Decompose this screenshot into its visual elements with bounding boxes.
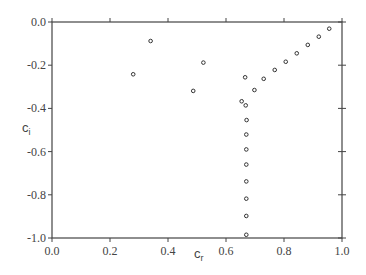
y-tick-label: -0.4 xyxy=(27,101,46,115)
data-point xyxy=(245,214,249,218)
data-point xyxy=(273,68,277,72)
data-point xyxy=(202,61,206,65)
x-tick-label: 0.4 xyxy=(161,244,176,258)
data-point xyxy=(240,99,244,103)
data-points xyxy=(131,27,331,237)
data-point xyxy=(262,77,266,81)
data-point xyxy=(245,118,249,122)
data-point xyxy=(244,104,248,108)
data-point xyxy=(245,180,249,184)
data-point xyxy=(245,133,249,137)
x-tick-label: 0.2 xyxy=(103,244,118,258)
y-axis-label: ci xyxy=(22,120,31,137)
data-point xyxy=(306,43,310,47)
data-point xyxy=(284,60,288,64)
data-point xyxy=(317,35,321,39)
y-tick-label: -0.2 xyxy=(27,58,46,72)
data-point xyxy=(295,52,299,56)
data-point xyxy=(245,148,249,152)
y-tick-label: -1.0 xyxy=(27,231,46,245)
x-tick-label: 0.0 xyxy=(45,244,60,258)
data-point xyxy=(253,88,257,92)
x-tick-label: 0.8 xyxy=(277,244,292,258)
data-point xyxy=(327,27,331,31)
x-axis-label: cr xyxy=(194,246,204,263)
x-tick-label: 0.6 xyxy=(219,244,234,258)
y-tick-label: -0.6 xyxy=(27,145,46,159)
data-point xyxy=(245,197,249,201)
data-point xyxy=(243,75,247,79)
data-point xyxy=(191,89,195,93)
y-tick-label: 0.0 xyxy=(31,15,46,29)
y-tick-label: -0.8 xyxy=(27,188,46,202)
data-point xyxy=(149,39,153,43)
data-point xyxy=(131,72,135,76)
x-tick-label: 1.0 xyxy=(335,244,350,258)
data-point xyxy=(245,233,249,237)
scatter-chart: 0.00.20.40.60.81.0 0.0-0.2-0.4-0.6-0.8-1… xyxy=(0,0,366,275)
data-point xyxy=(245,163,249,167)
axis-ticks xyxy=(48,18,346,242)
